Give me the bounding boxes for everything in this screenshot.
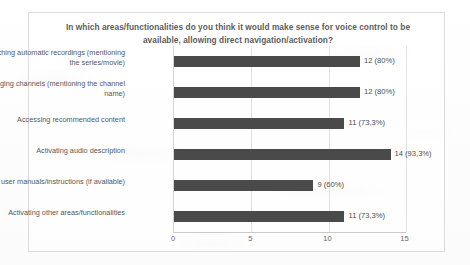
bar-value-label: 12 (80%)	[364, 55, 395, 66]
bar-value-label: 9 (60%)	[318, 179, 345, 190]
chart-row: Activating other areas/functionalities 1…	[174, 201, 406, 232]
category-label: Playing user manuals/instructions (if av…	[0, 177, 125, 187]
category-label: Activating audio description	[0, 146, 125, 156]
category-label: Changing channels (mentioning the channe…	[0, 79, 125, 98]
bar-value-label: 14 (93,3%)	[395, 148, 432, 159]
plot-area: Watching automatic recordings (mentionin…	[173, 46, 406, 233]
category-label: Watching automatic recordings (mentionin…	[0, 48, 125, 67]
bar-value-label: 11 (73,3%)	[349, 117, 386, 128]
chart-row: Changing channels (mentioning the channe…	[174, 77, 406, 108]
x-tick-label: 0	[171, 234, 175, 243]
bar[interactable]	[174, 211, 344, 222]
chart-row: Accessing recommended content 11 (73,3%)	[174, 108, 406, 139]
plot-wrapper: Watching automatic recordings (mentionin…	[29, 13, 446, 253]
category-label: Activating other areas/functionalities	[0, 208, 125, 218]
bar[interactable]	[174, 118, 344, 129]
bar[interactable]	[174, 149, 391, 160]
x-axis-tick-labels: 0 5 10 15	[173, 234, 405, 248]
bar[interactable]	[174, 87, 360, 98]
category-label: Accessing recommended content	[0, 115, 125, 125]
bar[interactable]	[174, 56, 360, 67]
x-tick-label: 5	[248, 234, 252, 243]
bar-value-label: 11 (73,3%)	[349, 210, 386, 221]
chart-row: Activating audio description 14 (93,3%)	[174, 139, 406, 170]
bar-value-label: 12 (80%)	[364, 86, 395, 97]
bar[interactable]	[174, 180, 313, 191]
x-tick-label: 15	[400, 234, 408, 243]
x-tick-label: 10	[323, 234, 331, 243]
chart-row: Watching automatic recordings (mentionin…	[174, 46, 406, 77]
bar-rows: Watching automatic recordings (mentionin…	[174, 46, 406, 232]
chart-container: In which areas/functionalities do you th…	[28, 12, 445, 252]
chart-row: Playing user manuals/instructions (if av…	[174, 170, 406, 201]
